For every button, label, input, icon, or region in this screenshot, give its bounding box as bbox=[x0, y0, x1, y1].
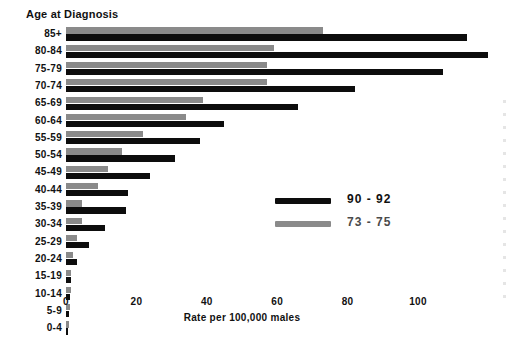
legend-label: 90 - 92 bbox=[347, 192, 391, 206]
bar-series-90-92 bbox=[66, 69, 443, 75]
bar-series-90-92 bbox=[66, 277, 71, 283]
x-axis-tick-label: 20 bbox=[131, 296, 143, 307]
bar-series-90-92 bbox=[66, 104, 298, 110]
bar-series-73-75 bbox=[66, 114, 186, 120]
bar-series-73-75 bbox=[66, 131, 143, 137]
bar-series-73-75 bbox=[66, 287, 71, 293]
x-axis-tick-label: 40 bbox=[201, 296, 213, 307]
y-axis-category-label: 15-19 bbox=[0, 270, 62, 281]
bar-series-73-75 bbox=[66, 235, 77, 241]
bar-series-73-75 bbox=[66, 97, 203, 103]
y-axis-category-label: 55-59 bbox=[0, 132, 62, 143]
chart-category-row: 10-14 bbox=[0, 286, 506, 303]
x-axis-tick-label: 0 bbox=[63, 296, 69, 307]
y-axis-category-label: 40-44 bbox=[0, 184, 62, 195]
y-axis-category-label: 5-9 bbox=[0, 305, 62, 316]
bar-series-90-92 bbox=[66, 207, 126, 213]
bar-series-90-92 bbox=[66, 138, 200, 144]
y-axis-category-label: 70-74 bbox=[0, 80, 62, 91]
page-title: Age at Diagnosis bbox=[26, 8, 118, 20]
legend-item: 73 - 75 bbox=[275, 215, 435, 235]
y-axis-category-label: 85+ bbox=[0, 28, 62, 39]
bar-series-90-92 bbox=[66, 259, 77, 265]
y-axis-category-label: 20-24 bbox=[0, 253, 62, 264]
chart-category-row: 80-84 bbox=[0, 43, 506, 60]
bar-series-90-92 bbox=[66, 225, 105, 231]
chart-legend: 90 - 9273 - 75 bbox=[275, 192, 435, 238]
legend-label: 73 - 75 bbox=[347, 215, 391, 229]
bar-series-90-92 bbox=[66, 52, 488, 58]
y-axis-category-label: 35-39 bbox=[0, 201, 62, 212]
chart-category-row: 70-74 bbox=[0, 78, 506, 95]
bar-series-73-75 bbox=[66, 252, 73, 258]
bar-series-90-92 bbox=[66, 34, 467, 40]
bar-series-90-92 bbox=[66, 328, 68, 334]
bar-series-73-75 bbox=[66, 218, 82, 224]
chart-category-row: 60-64 bbox=[0, 113, 506, 130]
bar-series-90-92 bbox=[66, 155, 175, 161]
chart-category-row: 55-59 bbox=[0, 130, 506, 147]
y-axis-category-label: 60-64 bbox=[0, 115, 62, 126]
chart-category-row: 75-79 bbox=[0, 61, 506, 78]
bar-series-73-75 bbox=[66, 79, 267, 85]
y-axis-category-label: 10-14 bbox=[0, 288, 62, 299]
chart-category-row: 45-49 bbox=[0, 164, 506, 181]
chart-category-row: 50-54 bbox=[0, 147, 506, 164]
plot-area: 85+80-8475-7970-7465-6960-6455-5950-5445… bbox=[0, 26, 506, 296]
y-axis-category-label: 25-29 bbox=[0, 236, 62, 247]
x-axis-tick-label: 60 bbox=[271, 296, 283, 307]
bar-chart-figure: Age at Diagnosis 85+80-8475-7970-7465-69… bbox=[0, 0, 506, 339]
chart-category-row: 85+ bbox=[0, 26, 506, 43]
bar-series-73-75 bbox=[66, 27, 323, 33]
bar-series-73-75 bbox=[66, 148, 122, 154]
bar-series-73-75 bbox=[66, 270, 71, 276]
chart-category-row: 65-69 bbox=[0, 95, 506, 112]
bar-series-73-75 bbox=[66, 62, 267, 68]
bar-series-90-92 bbox=[66, 173, 150, 179]
bar-series-90-92 bbox=[66, 242, 89, 248]
legend-swatch-black bbox=[275, 198, 331, 204]
y-axis-category-label: 45-49 bbox=[0, 166, 62, 177]
chart-category-row: 20-24 bbox=[0, 251, 506, 268]
bar-series-90-92 bbox=[66, 86, 355, 92]
y-axis-category-label: 0-4 bbox=[0, 322, 62, 333]
y-axis-category-label: 75-79 bbox=[0, 63, 62, 74]
y-axis-category-label: 80-84 bbox=[0, 45, 62, 56]
bar-series-90-92 bbox=[66, 121, 224, 127]
legend-item: 90 - 92 bbox=[275, 192, 435, 212]
bar-series-90-92 bbox=[66, 190, 128, 196]
y-axis-category-label: 50-54 bbox=[0, 149, 62, 160]
x-axis-title: Rate per 100,000 males bbox=[66, 312, 418, 323]
bar-series-73-75 bbox=[66, 166, 108, 172]
x-axis-tick-label: 100 bbox=[409, 296, 427, 307]
x-axis-tick-label: 80 bbox=[342, 296, 354, 307]
y-axis-category-label: 65-69 bbox=[0, 97, 62, 108]
bar-series-73-75 bbox=[66, 183, 98, 189]
chart-category-row: 15-19 bbox=[0, 268, 506, 285]
bar-series-73-75 bbox=[66, 200, 82, 206]
y-axis-category-label: 30-34 bbox=[0, 218, 62, 229]
bar-series-73-75 bbox=[66, 45, 274, 51]
legend-swatch-gray bbox=[275, 221, 331, 227]
